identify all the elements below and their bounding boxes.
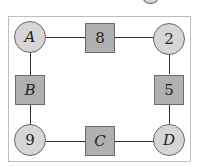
edge-9-c <box>46 141 86 142</box>
edge-8-2 <box>114 37 154 38</box>
node-d: D <box>153 124 185 156</box>
edge-b-9 <box>30 105 31 125</box>
node-b: B <box>15 75 45 105</box>
partial-circle-artifact <box>142 0 159 4</box>
node-2: 2 <box>153 23 185 55</box>
edge-a-8 <box>46 37 86 38</box>
node-5: 5 <box>154 75 184 105</box>
edge-c-d <box>114 141 154 142</box>
edge-a-b <box>30 53 31 75</box>
node-a: A <box>14 21 46 53</box>
edge-2-5 <box>169 55 170 74</box>
node-8: 8 <box>85 23 115 53</box>
node-9: 9 <box>14 124 46 156</box>
node-c: C <box>85 126 115 156</box>
edge-5-d <box>169 105 170 125</box>
